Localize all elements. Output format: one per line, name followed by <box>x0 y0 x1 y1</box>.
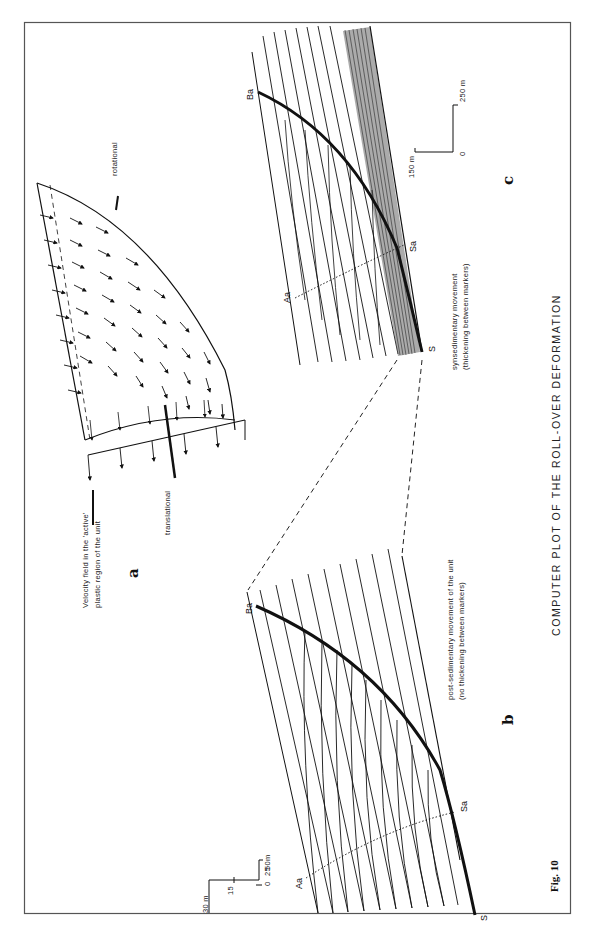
figure-number: Fig. 10 <box>548 860 560 892</box>
panel-b-scale-v-max: 30 m <box>201 895 210 913</box>
panel-b-scale-zero: 0 <box>263 882 272 886</box>
panel-label-a: a <box>124 568 142 578</box>
panel-b-point-aa: Aa <box>294 878 304 889</box>
panel-c-scale-v-max: 150 m <box>407 156 416 178</box>
panel-label-b: b <box>499 715 517 726</box>
panel-c-description-2: (thickening between markers) <box>461 263 470 370</box>
panel-c-point-s: S <box>427 346 437 352</box>
panel-label-c: c <box>499 176 517 185</box>
figure-caption: COMPUTER PLOT OF THE ROLL-OVER DEFORMATI… <box>550 294 562 636</box>
panel-c-description-1: synsedimentary movement <box>450 273 459 370</box>
panel-c-point-sa: Sa <box>408 241 418 252</box>
figure-canvas <box>0 0 592 941</box>
panel-c-scale-bar <box>415 105 458 152</box>
panel-b-point-sa: Sa <box>459 801 469 812</box>
panel-b-description-1: post-sedimentary movement of the unit <box>446 559 455 700</box>
translational-label: translational <box>163 491 172 535</box>
velocity-field-label-2: plastic region of the unit <box>93 521 102 608</box>
panel-c-point-aa: Aa <box>282 292 292 303</box>
panel-a-drawing <box>37 183 245 525</box>
panel-c-point-ba: Ba <box>245 89 255 100</box>
velocity-field-label-1: Velocity field in the 'active' <box>81 512 90 608</box>
projection-lines <box>248 360 422 590</box>
panel-b-scale-h-max: 50m <box>263 855 272 871</box>
figure-frame <box>25 23 571 914</box>
panel-c-drawing <box>252 26 422 365</box>
panel-b-description-2: (no thickening between markers) <box>457 582 466 700</box>
panel-b-point-s: S <box>479 915 489 921</box>
panel-b-scale-bar <box>209 860 263 913</box>
panel-b-point-ba: Ba <box>244 603 254 614</box>
panel-c-scale-h-max: 250 m <box>458 80 467 102</box>
panel-b-scale-v-mid: 15 <box>226 886 235 895</box>
rotational-label: rotational <box>110 142 119 176</box>
panel-c-scale-zero: 0 <box>458 152 467 156</box>
panel-b-drawing <box>247 549 475 915</box>
